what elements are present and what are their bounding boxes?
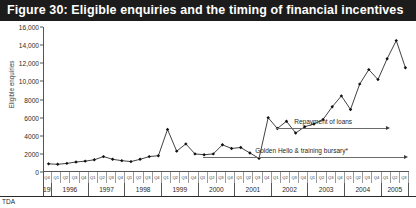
annotation-golden-hello-label: Golden Hello & training bursary* — [255, 147, 348, 154]
data-point-marker — [120, 159, 123, 162]
x-axis-quarter-label: Q3 — [107, 172, 116, 183]
data-point-marker — [395, 39, 398, 42]
y-axis-tick-label: 0 — [0, 169, 43, 176]
y-axis-tick-mark — [40, 117, 43, 118]
x-axis-year-label: 2004 — [345, 183, 382, 196]
x-axis-quarter-label: Q3 — [253, 172, 262, 183]
data-point-marker — [65, 162, 68, 165]
series-line — [49, 41, 406, 165]
data-point-marker — [102, 155, 105, 158]
y-axis-tick-mark — [40, 27, 43, 28]
y-axis-tick-label: 8000 — [0, 96, 43, 103]
y-axis-tick-mark — [40, 63, 43, 64]
x-axis-quarter-label: Q1 — [89, 172, 98, 183]
x-axis-quarter-label: Q2 — [98, 172, 107, 183]
x-axis-year-label: 1996 — [52, 183, 89, 196]
data-point-marker — [202, 153, 205, 156]
x-axis-quarter-label: Q2 — [391, 172, 400, 183]
x-axis-quarter-label: Q3 — [400, 172, 409, 183]
x-axis-quarter-label: Q1 — [272, 172, 281, 183]
x-axis-year-label: 1997 — [89, 183, 126, 196]
x-axis-quarter-label: Q1 — [162, 172, 171, 183]
annotation-repayment-line — [276, 128, 386, 129]
x-axis-quarter-label: Q3 — [144, 172, 153, 183]
data-point-marker — [239, 146, 242, 149]
x-axis-year-row: 1995199619971998199920002001200220032004… — [43, 183, 409, 196]
x-axis-quarter-label: Q3 — [363, 172, 372, 183]
x-axis-quarter-label: Q2 — [244, 172, 253, 183]
y-axis-tick-mark — [40, 153, 43, 154]
x-axis-year-label: 2002 — [272, 183, 309, 196]
y-axis-tick-mark — [40, 45, 43, 46]
footer-divider — [0, 196, 416, 197]
x-axis-quarter-label: Q4 — [189, 172, 198, 183]
y-axis-tick-label: 10,000 — [0, 78, 43, 85]
x-axis-quarter-label: Q4 — [336, 172, 345, 183]
x-axis-quarter-label: Q4 — [116, 172, 125, 183]
arrow-right-icon — [404, 155, 408, 159]
data-point-marker — [166, 128, 169, 131]
x-axis-quarter-label: Q2 — [318, 172, 327, 183]
x-axis-quarter-label: Q2 — [135, 172, 144, 183]
x-axis-quarter-label: Q4 — [226, 172, 235, 183]
y-axis-tick-mark — [40, 81, 43, 82]
y-axis-tick-label: 12,000 — [0, 60, 43, 67]
data-point-marker — [138, 158, 141, 161]
data-point-marker — [157, 154, 160, 157]
y-axis-tick-label: 6000 — [0, 114, 43, 121]
x-axis-quarter-label: Q1 — [125, 172, 134, 183]
x-axis-quarter-label: Q1 — [308, 172, 317, 183]
data-point-marker — [56, 163, 59, 166]
data-point-marker — [93, 158, 96, 161]
x-axis-quarter-label: Q2 — [61, 172, 70, 183]
x-axis-year-label: 2001 — [235, 183, 272, 196]
x-axis-quarter-label: Q1 — [199, 172, 208, 183]
x-axis-quarter-label: Q1 — [235, 172, 244, 183]
x-axis-quarter-label: Q4 — [263, 172, 272, 183]
y-axis-tick-label: 14,000 — [0, 42, 43, 49]
data-point-marker — [148, 155, 151, 158]
data-point-marker — [385, 57, 388, 60]
data-point-marker — [47, 162, 50, 165]
x-axis-quarter-label: Q3 — [217, 172, 226, 183]
x-axis-quarter-label: Q3 — [327, 172, 336, 183]
x-axis-quarter-label: Q3 — [290, 172, 299, 183]
x-axis-quarter-label: Q1 — [345, 172, 354, 183]
page-title: Figure 30: Eligible enquiries and the ti… — [7, 3, 403, 17]
x-axis-quarter-label: Q4 — [299, 172, 308, 183]
annotation-golden-hello-line — [203, 157, 404, 158]
data-point-marker — [83, 159, 86, 162]
x-axis-year-label: 1998 — [125, 183, 162, 196]
y-axis-tick-label: 2000 — [0, 150, 43, 157]
annotation-repayment-label: Repayment of loans — [294, 118, 352, 125]
x-axis-year-label: 1995 — [43, 183, 52, 196]
x-axis-quarter-label: Q4 — [372, 172, 381, 183]
figure-title-bar: Figure 30: Eligible enquiries and the ti… — [0, 0, 416, 21]
y-axis-tick-mark — [40, 135, 43, 136]
x-axis-quarter-label: Q3 — [70, 172, 79, 183]
plot-region — [43, 27, 409, 172]
x-axis-year-label: 2000 — [199, 183, 236, 196]
y-axis-tick-label: 4000 — [0, 132, 43, 139]
x-axis-quarter-label: Q3 — [180, 172, 189, 183]
data-point-marker — [248, 151, 251, 154]
x-axis-quarter-label: Q2 — [171, 172, 180, 183]
data-point-marker — [230, 147, 233, 150]
x-axis-quarter-label: Q1 — [382, 172, 391, 183]
data-point-marker — [404, 66, 407, 69]
y-axis-tick-label: 16,000 — [0, 24, 43, 31]
data-point-marker — [74, 160, 77, 163]
data-point-marker — [111, 158, 114, 161]
source-note: TDA — [2, 198, 15, 205]
x-axis-quarter-label: Q2 — [281, 172, 290, 183]
x-axis-quarter-label: Q4 — [43, 172, 52, 183]
x-axis-year-label: 1999 — [162, 183, 199, 196]
arrow-right-icon — [386, 126, 390, 130]
data-point-marker — [129, 160, 132, 163]
y-axis-tick-mark — [40, 99, 43, 100]
x-axis-quarter-label: Q2 — [354, 172, 363, 183]
line-series-eligible-enquiries — [44, 27, 410, 172]
x-axis-quarter-label: Q1 — [52, 172, 61, 183]
x-axis-quarter-label: Q4 — [80, 172, 89, 183]
chart-area: Eligible enquiries 16,00014,00012,00010,… — [0, 21, 416, 208]
